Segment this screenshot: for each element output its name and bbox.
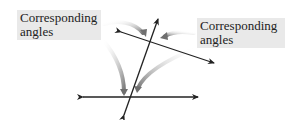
callout-arrow-right-lower — [134, 48, 196, 93]
label-right-line2: angles — [200, 33, 282, 47]
callout-arrow-right-upper — [160, 32, 194, 40]
callout-arrow-left-lower — [103, 40, 128, 96]
label-right: Corresponding angles — [197, 18, 285, 48]
corresponding-angles-diagram: Corresponding angles Corresponding angle… — [0, 0, 295, 120]
label-right-line1: Corresponding — [200, 19, 282, 33]
label-left-line2: angles — [20, 25, 98, 39]
callout-arrow-left-upper — [104, 22, 147, 37]
label-left: Corresponding angles — [17, 10, 101, 40]
label-left-line1: Corresponding — [20, 11, 98, 25]
